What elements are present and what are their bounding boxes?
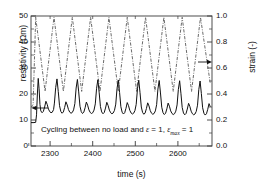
y2tick-label-1.0: 1.0 — [216, 11, 242, 20]
caption-subscript: max — [170, 130, 179, 136]
y2tick-label-0.0: 0.0 — [216, 141, 242, 150]
y2tick-label-0.8: 0.8 — [216, 37, 242, 46]
caption-suffix: = 1 — [180, 125, 194, 134]
y2tick-label-0.6: 0.6 — [216, 63, 242, 72]
ytick-label-10: 10 — [2, 115, 28, 124]
xtick-label-2500: 2500 — [115, 149, 155, 158]
y2tick-label-0.4: 0.4 — [216, 89, 242, 98]
chart-figure: 50 40 30 20 10 0 1.0 0.8 0.6 0.4 0.2 0.0… — [0, 0, 263, 184]
caption-mid: = 1, — [149, 125, 167, 134]
y2tick-label-0.2: 0.2 — [216, 115, 242, 124]
caption-prefix: Cycling between no load and — [41, 125, 146, 134]
cycling-caption: Cycling between no load and ε = 1, εmax … — [41, 125, 193, 136]
y-axis-title-left: resistivity (Ωm) — [18, 8, 28, 98]
x-axis-title: time (s) — [0, 169, 263, 179]
xtick-label-2600: 2600 — [158, 149, 198, 158]
xtick-label-2400: 2400 — [73, 149, 113, 158]
xtick-label-2300: 2300 — [30, 149, 70, 158]
y-axis-title-right: strain (-) — [247, 17, 257, 97]
ytick-label-0: 0 — [2, 141, 28, 150]
